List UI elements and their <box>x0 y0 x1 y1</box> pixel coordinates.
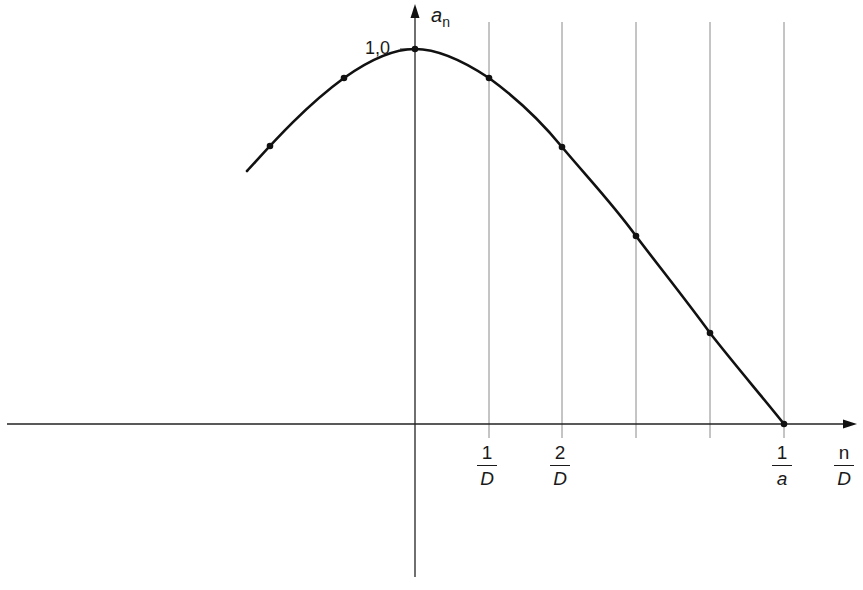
y-axis-symbol: a <box>431 4 442 26</box>
data-point <box>633 233 640 240</box>
x-axis-arrow-icon <box>843 420 857 429</box>
vertical-gridlines <box>489 22 784 438</box>
peak-value-label: 1,0 <box>365 38 390 59</box>
y-axis-arrow-icon <box>411 4 420 18</box>
tick-label-1-over-a: 1 a <box>772 442 792 490</box>
y-axis-subscript: n <box>442 14 450 30</box>
fraction-bar <box>477 465 497 466</box>
curve-a-n <box>247 49 784 424</box>
x-axis-label: n D <box>834 442 854 490</box>
y-axis-label: an <box>431 4 450 30</box>
x-axis-denominator: D <box>837 468 851 490</box>
tick-label-1-over-D: 1 D <box>477 442 497 490</box>
data-point <box>267 143 274 150</box>
x-axis-numerator: n <box>839 442 850 464</box>
tick-numerator: 1 <box>482 442 493 464</box>
fraction-bar <box>550 465 570 466</box>
tick-numerator: 1 <box>777 442 788 464</box>
tick-denominator: D <box>553 468 567 490</box>
fraction-bar <box>834 465 854 466</box>
tick-denominator: D <box>480 468 494 490</box>
data-points <box>267 46 788 428</box>
fraction-bar <box>772 465 792 466</box>
data-point <box>707 330 714 337</box>
tick-denominator: a <box>777 468 788 490</box>
tick-label-2-over-D: 2 D <box>550 442 570 490</box>
tick-numerator: 2 <box>555 442 566 464</box>
data-point <box>559 144 566 151</box>
chart-canvas <box>0 0 863 590</box>
data-point <box>341 75 348 82</box>
data-point <box>781 421 788 428</box>
data-point <box>486 75 493 82</box>
data-point <box>412 46 419 53</box>
